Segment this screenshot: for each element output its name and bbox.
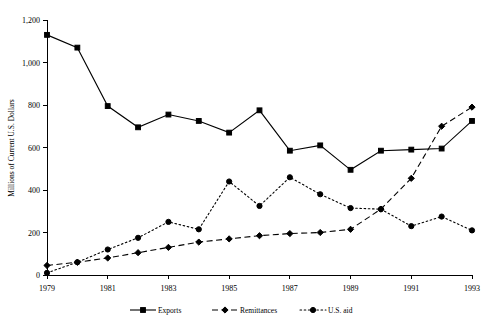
legend-label: Remittances [240,306,277,315]
data-point-marker [287,148,292,153]
data-point-marker [378,207,383,212]
y-tick-label: 1,200 [22,16,40,25]
data-point-marker [105,255,111,261]
y-tick-label: 400 [28,186,40,195]
y-axis-title: Millions of Current U.S. Dollars [7,99,16,197]
data-point-marker [469,104,475,110]
data-point-marker [348,167,353,172]
data-point-marker [439,214,444,219]
x-tick-label: 1985 [221,284,237,293]
y-tick-label: 600 [28,144,40,153]
y-axis-ticks: 02004006008001,0001,200 [22,16,47,280]
data-point-marker [166,219,171,224]
data-point-marker [318,143,323,148]
legend-item-u-s-aid[interactable]: U.S. aid [300,306,353,315]
data-point-marker [317,229,323,235]
legend-label: Exports [158,306,181,315]
series-remittances [44,104,475,269]
data-point-marker [348,205,353,210]
y-tick-label: 0 [36,271,40,280]
data-point-marker [257,203,262,208]
data-point-marker [287,230,293,236]
data-point-marker [75,45,80,50]
x-tick-label: 1987 [282,284,298,293]
data-point-marker [44,262,50,268]
x-tick-label: 1989 [343,284,359,293]
data-point-marker [105,104,110,109]
legend-marker-sample [222,307,228,313]
data-point-marker [257,108,262,113]
data-point-marker [165,244,171,250]
x-tick-label: 1991 [403,284,419,293]
data-point-marker [256,233,262,239]
chart-legend: ExportsRemittancesU.S. aid [130,306,353,315]
x-tick-label: 1993 [464,284,480,293]
line-chart: Millions of Current U.S. Dollars 0200400… [0,0,490,323]
data-point-marker [44,270,49,275]
data-point-marker [439,146,444,151]
x-tick-label: 1981 [100,284,116,293]
data-point-marker [105,247,110,252]
data-point-marker [318,192,323,197]
data-point-marker [409,147,414,152]
legend-item-remittances[interactable]: Remittances [212,306,277,315]
series-line [47,107,472,265]
y-tick-label: 200 [28,229,40,238]
x-tick-label: 1979 [39,284,55,293]
legend-item-exports[interactable]: Exports [130,306,181,315]
data-point-marker [347,226,353,232]
data-point-marker [45,32,50,37]
y-tick-label: 800 [28,101,40,110]
data-point-marker [227,179,232,184]
series-line [47,35,472,170]
legend-marker-sample [310,307,315,312]
chart-container: Millions of Current U.S. Dollars 0200400… [0,0,490,323]
data-point-marker [379,148,384,153]
legend-label: U.S. aid [328,306,353,315]
data-point-marker [135,250,141,256]
data-point-marker [135,235,140,240]
y-axis-title-label: Millions of Current U.S. Dollars [7,99,16,197]
data-point-marker [196,227,201,232]
data-point-marker [196,239,202,245]
data-point-marker [287,175,292,180]
data-point-marker [136,125,141,130]
data-point-marker [75,260,80,265]
data-point-marker [227,130,232,135]
x-tick-label: 1983 [160,284,176,293]
data-point-marker [226,236,232,242]
data-point-marker [409,224,414,229]
series-layer [44,32,475,275]
data-point-marker [166,112,171,117]
series-exports [45,32,475,172]
y-tick-label: 1,000 [22,59,40,68]
data-point-marker [470,119,475,124]
x-axis-ticks: 19791981198319851987198919911993 [39,275,480,293]
data-point-marker [196,119,201,124]
data-point-marker [469,228,474,233]
data-point-marker [439,123,445,129]
legend-marker-sample [141,308,146,313]
